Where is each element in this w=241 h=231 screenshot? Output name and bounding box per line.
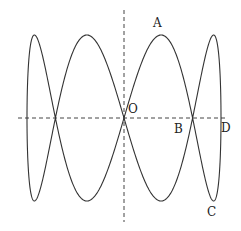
label-b: B [174, 122, 183, 136]
label-o: O [128, 102, 138, 116]
lissajous-diagram: A O B D C [0, 0, 241, 231]
label-c: C [207, 205, 216, 219]
label-d: D [221, 121, 231, 135]
label-a: A [152, 16, 162, 30]
